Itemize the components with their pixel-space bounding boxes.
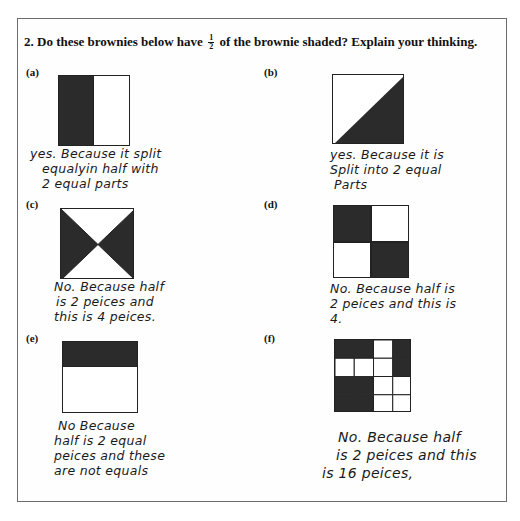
grid-cell xyxy=(374,377,393,395)
answer-e: No Because half is 2 equal peices and th… xyxy=(54,418,165,478)
item-d-label: (d) xyxy=(264,198,277,210)
brownie-f-grid xyxy=(335,340,411,412)
brownie-f xyxy=(334,339,411,412)
grid-cell xyxy=(354,340,373,358)
grid-cell xyxy=(393,340,411,358)
answer-e-line-2: half is 2 equal xyxy=(54,433,165,448)
brownie-d xyxy=(333,205,409,278)
answer-b-line-3: Parts xyxy=(330,177,444,192)
grid-cell xyxy=(335,377,354,395)
brownie-b xyxy=(332,74,404,144)
brownie-e xyxy=(62,341,138,413)
grid-cell xyxy=(335,395,354,412)
answer-f-line-3: is 16 peices, xyxy=(322,464,477,482)
item-b-label: (b) xyxy=(264,66,277,78)
brownie-c-diagonal-shading xyxy=(61,209,134,279)
grid-cell xyxy=(354,395,373,412)
answer-a-line-2: equalyin half with xyxy=(30,161,161,176)
grid-cell xyxy=(393,377,411,395)
brownie-d-horizontal-line xyxy=(334,241,408,243)
brownie-a-shaded-half xyxy=(59,76,94,145)
answer-d: No. Because half is 2 peices and this is… xyxy=(330,281,456,326)
answer-f-line-1: No. Because half xyxy=(338,428,477,446)
answer-a-line-1: yes. Because it split xyxy=(30,146,161,161)
answer-c-line-1: No. Because half xyxy=(54,279,164,294)
brownie-a xyxy=(58,75,130,146)
grid-cell xyxy=(374,395,393,412)
item-a-label: (a) xyxy=(26,66,39,78)
answer-c-line-3: this is 4 peices. xyxy=(54,309,164,324)
answer-a: yes. Because it split equalyin half with… xyxy=(30,146,161,191)
brownie-d-bottom-right-shaded xyxy=(371,241,408,277)
answer-a-line-3: 2 equal parts xyxy=(30,176,161,191)
grid-cell xyxy=(374,358,393,376)
grid-cell xyxy=(393,358,411,376)
fraction-one-half: 1 2 xyxy=(208,34,214,51)
answer-e-line-3: peices and these xyxy=(54,448,165,463)
question-prefix: 2. Do these brownies below have xyxy=(24,34,203,49)
answer-d-line-3: 4. xyxy=(330,311,456,326)
grid-cell xyxy=(393,395,411,412)
item-e-label: (e) xyxy=(26,332,38,344)
answer-b-line-1: yes. Because it is xyxy=(330,147,444,162)
answer-e-line-4: are not equals xyxy=(54,463,165,478)
answer-f-line-2: is 2 peices and this xyxy=(336,446,477,464)
grid-cell xyxy=(354,377,373,395)
item-c-label: (c) xyxy=(26,198,38,210)
answer-d-line-1: No. Because half is xyxy=(330,281,456,296)
question-suffix: of the brownie shaded? Explain your thin… xyxy=(219,34,477,49)
grid-cell xyxy=(374,340,393,358)
answer-c: No. Because half is 2 peices and this is… xyxy=(54,279,164,324)
item-f-label: (f) xyxy=(264,332,275,344)
answer-e-line-1: No Because xyxy=(54,418,165,433)
grid-cell xyxy=(354,358,373,376)
grid-cell xyxy=(335,358,354,376)
answer-b: yes. Because it is Split into 2 equal Pa… xyxy=(330,147,444,192)
answer-c-line-2: is 2 peices and xyxy=(54,294,164,309)
brownie-b-diagonal-shading xyxy=(333,75,404,144)
answer-d-line-2: 2 peices and this is xyxy=(330,296,456,311)
answer-b-line-2: Split into 2 equal xyxy=(330,162,444,177)
brownie-c xyxy=(60,208,134,279)
fraction-denominator: 2 xyxy=(209,43,213,51)
brownie-e-top-band-shaded xyxy=(63,342,137,367)
question-prompt: 2. Do these brownies below have 1 2 of t… xyxy=(24,34,494,52)
brownie-d-top-left-shaded xyxy=(334,206,371,241)
grid-cell xyxy=(335,340,354,358)
answer-f: No. Because half is 2 peices and this is… xyxy=(338,428,477,482)
